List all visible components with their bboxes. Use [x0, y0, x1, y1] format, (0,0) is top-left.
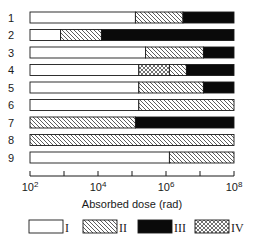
row-label: 4 — [8, 64, 14, 76]
bar-segment-III — [203, 82, 234, 93]
bar-segment-I — [30, 82, 139, 93]
bar-segment-II — [30, 135, 234, 146]
bar-segment-II — [135, 12, 183, 23]
bar-row: 5 — [8, 82, 234, 94]
bar-row: 3 — [8, 47, 234, 59]
row-label: 2 — [8, 29, 14, 41]
row-label: 6 — [8, 99, 14, 111]
row-label: 1 — [8, 12, 14, 24]
bars-group: 123456789 — [8, 12, 234, 164]
bar-segment-I — [30, 152, 169, 163]
row-label: 7 — [8, 117, 14, 129]
legend: IIIIIIIV — [29, 220, 244, 235]
legend-label: II — [119, 221, 127, 235]
bar-segment-II — [139, 100, 234, 111]
x-axis: 102104106108 — [22, 171, 243, 193]
bar-segment-III — [186, 65, 234, 76]
bar-segment-I — [30, 65, 139, 76]
bar-row: 9 — [8, 152, 234, 164]
bar-row: 7 — [8, 117, 234, 129]
x-tick-label: 106 — [158, 180, 175, 193]
bar-row: 4 — [8, 64, 234, 76]
bar-segment-III — [203, 47, 234, 58]
legend-item-III: III — [138, 220, 186, 235]
legend-label: I — [65, 221, 69, 235]
x-tick-label: 104 — [90, 180, 107, 193]
bar-segment-II — [139, 82, 204, 93]
legend-item-I: I — [29, 220, 69, 235]
x-axis-label: Absorbed dose (rad) — [82, 198, 182, 210]
legend-item-IV: IV — [195, 220, 244, 235]
bar-row: 1 — [8, 12, 234, 24]
bar-row: 6 — [8, 99, 234, 111]
row-label: 5 — [8, 82, 14, 94]
legend-label: III — [174, 221, 186, 235]
legend-item-II: II — [83, 220, 127, 235]
bar-segment-I — [30, 12, 135, 23]
bar-segment-III — [183, 12, 234, 23]
bar-segment-I — [30, 47, 146, 58]
row-label: 3 — [8, 47, 14, 59]
bar-segment-I — [30, 30, 61, 41]
bar-segment-II — [30, 117, 135, 128]
x-tick-label: 102 — [22, 180, 39, 193]
bar-segment-II — [146, 47, 204, 58]
row-label: 9 — [8, 152, 14, 164]
bar-segment-I — [30, 100, 139, 111]
chart-canvas: 123456789 102104106108 Absorbed dose (ra… — [0, 0, 254, 246]
bar-segment-II — [169, 152, 234, 163]
bar-segment-III — [101, 30, 234, 41]
legend-swatch — [29, 220, 63, 233]
bar-segment-II — [61, 30, 102, 41]
legend-swatch — [138, 220, 172, 233]
bar-row: 8 — [8, 134, 234, 146]
legend-swatch — [83, 220, 117, 233]
x-tick-label: 108 — [226, 180, 243, 193]
legend-label: IV — [231, 221, 244, 235]
legend-swatch — [195, 220, 229, 233]
bar-segment-II — [169, 65, 186, 76]
bar-row: 2 — [8, 29, 234, 41]
bar-segment-IV — [139, 65, 170, 76]
row-label: 8 — [8, 134, 14, 146]
bar-segment-III — [135, 117, 234, 128]
